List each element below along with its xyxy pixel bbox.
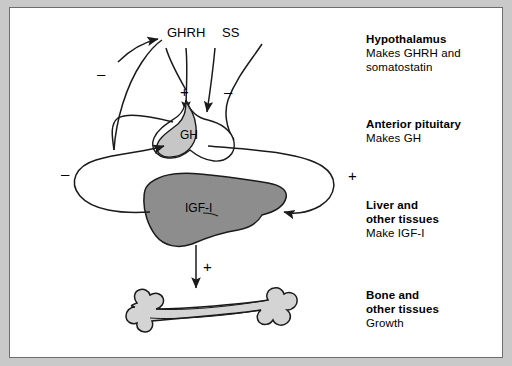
caption-hypothalamus-heading: Hypothalamus xyxy=(366,32,461,46)
caption-hypothalamus-line2: somatostatin xyxy=(366,60,461,74)
node-label-ghrh: GHRH xyxy=(167,25,205,40)
caption-bone: Bone and other tissues Growth xyxy=(366,288,439,330)
caption-liver-line1: Make IGF-I xyxy=(366,226,439,240)
ss-to-pituitary-arrow xyxy=(207,48,215,112)
caption-hypothalamus: Hypothalamus Makes GHRH and somatostatin xyxy=(366,32,461,74)
caption-anterior-pituitary-line1: Makes GH xyxy=(366,131,461,145)
caption-bone-line1: Growth xyxy=(366,316,439,330)
caption-liver-heading2: other tissues xyxy=(366,212,439,226)
node-label-igf1: IGF-I xyxy=(185,201,212,215)
sign-igf1-stimulates-bone: + xyxy=(203,259,212,274)
caption-anterior-pituitary: Anterior pituitary Makes GH xyxy=(366,117,461,145)
caption-bone-heading: Bone and xyxy=(366,288,439,302)
sign-gh-feedback-hypothalamus: – xyxy=(97,66,105,81)
node-label-ss: SS xyxy=(222,25,239,40)
bone-shape xyxy=(126,288,297,332)
sign-ghrh-stimulates-gh: + xyxy=(180,84,189,99)
caption-liver: Liver and other tissues Make IGF-I xyxy=(366,198,439,240)
feedback-arrow-into-ghrh xyxy=(118,39,158,62)
caption-bone-heading2: other tissues xyxy=(366,302,439,316)
caption-hypothalamus-line1: Makes GHRH and xyxy=(366,46,461,60)
caption-anterior-pituitary-heading: Anterior pituitary xyxy=(366,117,461,131)
sign-igf1-feedback-hypothalamus: – xyxy=(61,166,69,181)
sign-ss-inhibits-gh: – xyxy=(224,84,232,99)
node-label-gh: GH xyxy=(180,128,198,142)
caption-liver-heading: Liver and xyxy=(366,198,439,212)
figure-frame: GHRH SS GH IGF-I + – – – + + Hypothalamu… xyxy=(0,0,512,366)
liver-shape xyxy=(144,173,286,246)
sign-gh-stimulates-liver: + xyxy=(348,168,357,183)
